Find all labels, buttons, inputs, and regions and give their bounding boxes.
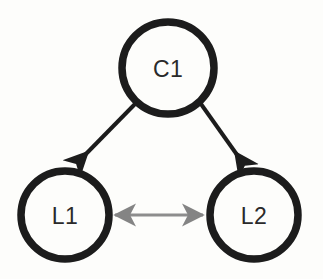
edge-c1-to-l2 [201, 104, 240, 159]
diagram-canvas: C1 L1 L2 [0, 0, 323, 279]
diagram-svg: C1 L1 L2 [0, 0, 323, 279]
edge-c1-to-l1 [82, 104, 135, 158]
node-l1[interactable]: L1 [21, 171, 109, 259]
node-l1-label: L1 [52, 203, 78, 229]
node-c1[interactable]: C1 [122, 22, 214, 114]
edge-c1-to-l2-line [201, 104, 240, 159]
node-l2[interactable]: L2 [210, 171, 298, 259]
node-l2-label: L2 [241, 203, 267, 229]
node-c1-label: C1 [153, 56, 183, 82]
edge-c1-to-l1-line [82, 104, 135, 158]
